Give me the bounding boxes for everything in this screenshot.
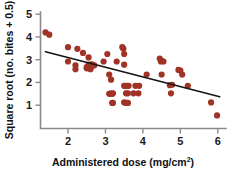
data-point: [136, 83, 142, 89]
data-point: [160, 58, 166, 64]
data-point: [120, 46, 126, 52]
data-point: [85, 54, 91, 60]
y-tick-label: 2: [26, 76, 32, 88]
data-point: [110, 90, 116, 96]
data-point: [135, 90, 141, 96]
scatter-plot-figure: 12345 23456 Administered dose (mg/cm2) S…: [0, 0, 235, 173]
data-point: [110, 100, 116, 106]
x-axis-title: Administered dose (mg/cm2): [52, 156, 194, 168]
data-point: [214, 112, 220, 118]
y-axis-ticks: 12345: [26, 8, 41, 111]
data-point: [159, 71, 165, 77]
axes-group: 12345 23456: [26, 8, 226, 147]
x-tick-label: 2: [65, 135, 71, 147]
y-tick-label: 4: [26, 31, 33, 43]
y-tick-label: 5: [26, 8, 32, 20]
data-point: [126, 83, 132, 89]
y-tick-label: 3: [26, 54, 32, 66]
x-tick-label: 5: [177, 135, 183, 147]
plot-area: [42, 29, 220, 118]
data-point: [80, 50, 86, 56]
y-axis-title: Square root (no. bites + 0.5): [3, 1, 15, 140]
data-point: [121, 51, 127, 57]
data-point: [121, 62, 127, 68]
x-tick-label: 3: [102, 135, 108, 147]
data-point: [208, 99, 214, 105]
y-tick-label: 1: [26, 99, 32, 111]
x-axis-ticks: 23456: [65, 129, 221, 148]
x-tick-label: 6: [215, 135, 221, 147]
data-point: [104, 51, 110, 57]
data-point: [125, 90, 131, 96]
data-point: [125, 100, 131, 106]
data-point: [114, 58, 120, 64]
data-point: [65, 58, 71, 64]
regression-trend-line: [46, 52, 220, 97]
data-point: [168, 90, 174, 96]
axis-lines: [41, 12, 227, 129]
data-point: [179, 71, 185, 77]
chart-canvas: 12345 23456 Administered dose (mg/cm2) S…: [0, 0, 235, 173]
x-tick-label: 4: [140, 135, 147, 147]
data-point: [72, 66, 78, 72]
data-point: [46, 32, 52, 38]
data-point: [100, 58, 106, 64]
data-point: [74, 46, 80, 52]
data-point: [108, 77, 114, 83]
data-point: [65, 44, 71, 50]
